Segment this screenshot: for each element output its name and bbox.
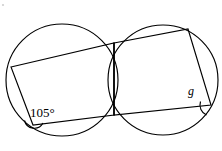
right-inscribed-quadrilateral [114, 29, 211, 115]
angle-label-g: g [188, 84, 194, 98]
geometry-figure-container: 105° g [0, 0, 222, 151]
angle-label-105: 105° [30, 105, 55, 120]
artifact-speck [2, 4, 4, 6]
left-inscribed-quadrilateral [11, 43, 114, 125]
left-circle [6, 24, 118, 136]
two-circles-geometry-diagram: 105° g [0, 0, 222, 151]
angle-arc-g [200, 102, 207, 116]
